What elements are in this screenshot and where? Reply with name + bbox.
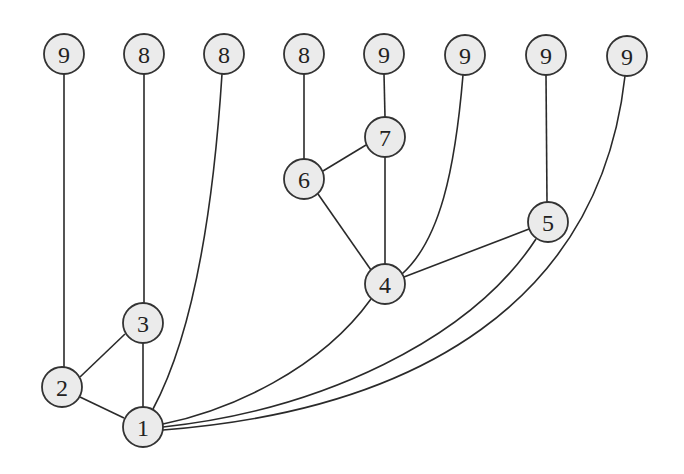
edge-t3-n1 (153, 74, 222, 409)
graph-node: 9 (364, 34, 404, 74)
edges-layer (64, 74, 625, 430)
node-label: 8 (298, 42, 310, 68)
edge-n5-n1 (163, 239, 536, 427)
graph-node: 4 (365, 264, 405, 304)
graph-node: 9 (445, 35, 485, 75)
edge-n7-n6 (323, 145, 366, 171)
graph-node: 9 (44, 34, 84, 74)
edge-n5-n4 (404, 229, 529, 277)
edge-n6-n4 (318, 194, 371, 270)
edge-t6-n4 (402, 75, 463, 274)
graph-node: 8 (284, 34, 324, 74)
node-label: 9 (459, 43, 471, 69)
graph-node: 8 (204, 34, 244, 74)
graph-node: 8 (124, 34, 164, 74)
node-label: 2 (56, 375, 68, 401)
node-label: 7 (379, 125, 391, 151)
graph-node: 3 (123, 303, 163, 343)
graph-node: 5 (528, 202, 568, 242)
graph-node: 9 (526, 35, 566, 75)
node-label: 6 (298, 167, 310, 193)
edge-t7-n5 (546, 75, 547, 202)
edge-n4-n1 (163, 299, 371, 424)
node-label: 8 (218, 42, 230, 68)
node-label: 8 (138, 42, 150, 68)
node-label: 3 (137, 311, 149, 337)
node-label: 9 (58, 42, 70, 68)
node-label: 9 (378, 42, 390, 68)
node-label: 5 (542, 210, 554, 236)
node-label: 9 (621, 44, 633, 70)
edge-n3-n2 (80, 334, 125, 377)
node-label: 4 (379, 272, 391, 298)
graph-node: 6 (284, 159, 324, 199)
graph-node: 1 (123, 407, 163, 447)
nodes-layer: 988899997654321 (42, 34, 647, 447)
graph-node: 7 (365, 117, 405, 157)
graph-diagram: 988899997654321 (0, 0, 684, 474)
node-label: 1 (137, 415, 149, 441)
graph-node: 9 (607, 36, 647, 76)
node-label: 9 (540, 43, 552, 69)
edge-n2-n1 (80, 397, 124, 418)
graph-node: 2 (42, 367, 82, 407)
edge-t5-n7 (384, 74, 385, 117)
